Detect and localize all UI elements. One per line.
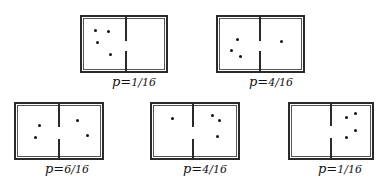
particle-dot <box>76 119 79 122</box>
particle-dot <box>354 112 357 115</box>
particle-dot <box>109 53 112 56</box>
particle-dot <box>171 117 174 120</box>
particle-dot <box>236 38 239 41</box>
particle-dot <box>218 119 221 122</box>
container-box-4 <box>150 102 240 160</box>
particle-dot <box>239 55 242 58</box>
partition-wall-lower <box>125 51 127 73</box>
particle-dot <box>34 136 37 139</box>
particle-dot <box>345 136 348 139</box>
partition-wall-upper <box>259 15 261 41</box>
partition-wall-upper <box>58 102 60 127</box>
particle-dot <box>107 30 110 33</box>
particle-dot <box>345 116 348 119</box>
particle-dot <box>354 129 357 132</box>
probability-label-1: p=1/16 <box>112 74 156 89</box>
particle-dot <box>96 41 99 44</box>
partition-wall-upper <box>330 102 332 126</box>
container-box-1 <box>80 15 168 73</box>
partition-wall-lower <box>58 139 60 160</box>
particle-dot <box>280 40 283 43</box>
probability-label-2: p=4/16 <box>249 74 293 89</box>
probability-label-3: p=6/16 <box>45 161 89 176</box>
probability-label-4: p=4/16 <box>183 161 227 176</box>
particle-dot <box>94 29 97 32</box>
partition-wall-lower <box>259 51 261 73</box>
particle-dot <box>211 114 214 117</box>
particle-dot <box>86 134 89 137</box>
partition-wall-lower <box>192 139 194 160</box>
partition-wall-lower <box>330 138 332 160</box>
partition-wall-upper <box>125 15 127 41</box>
particle-dot <box>38 124 41 127</box>
particle-dot <box>216 135 219 138</box>
partition-wall-upper <box>192 102 194 127</box>
probability-label-5: p=1/16 <box>318 161 362 176</box>
particle-dot <box>230 49 233 52</box>
